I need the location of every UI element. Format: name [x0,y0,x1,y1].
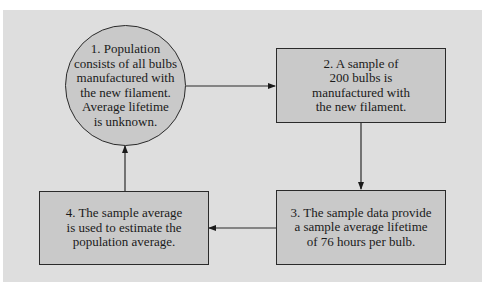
node-sample: 2. A sample of 200 bulbs is manufactured… [276,48,446,123]
node-estimate-label: 4. The sample average is used to estimat… [66,206,183,250]
node-population-label: 1. Population consists of all bulbs manu… [74,42,177,129]
node-population: 1. Population consists of all bulbs manu… [65,25,186,146]
node-sample-label: 2. A sample of 200 bulbs is manufactured… [312,57,410,115]
node-sample-data-label: 3. The sample data provide a sample aver… [291,206,432,250]
node-estimate: 4. The sample average is used to estimat… [39,191,209,265]
node-sample-data: 3. The sample data provide a sample aver… [276,190,446,265]
